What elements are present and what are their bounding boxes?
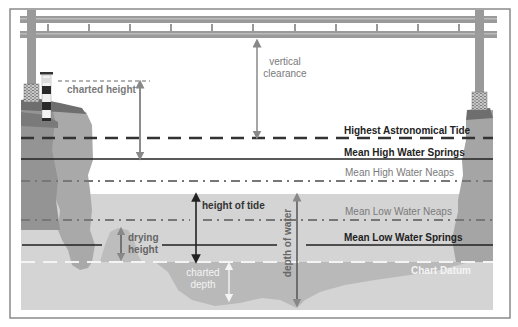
lighthouse: [40, 72, 53, 121]
charted-depth-label-2: depth: [190, 279, 215, 290]
mhwn-label: Mean High Water Neaps: [345, 167, 454, 178]
charted-height-label: charted height: [67, 84, 137, 95]
mhws-label: Mean High Water Springs: [344, 147, 465, 158]
charted-depth-label-1: charted: [186, 267, 219, 278]
vertical-clearance-label-2: clearance: [263, 68, 307, 79]
bridge-right-post: [475, 10, 484, 92]
tidal-levels-diagram: Highest Astronomical Tide Mean High Wate…: [0, 0, 518, 327]
drying-height-label-1: drying: [128, 232, 159, 243]
right-pillar-base: [472, 92, 487, 110]
chart-datum-label: Chart Datum: [411, 265, 471, 276]
vertical-clearance-label-1: vertical: [269, 56, 301, 67]
depth-of-water-label: depth of water: [282, 209, 293, 277]
left-pillar-base: [24, 84, 39, 102]
mlwn-label: Mean Low Water Neaps: [345, 206, 452, 217]
height-of-tide-label: height of tide: [202, 200, 265, 211]
mlws-label: Mean Low Water Springs: [344, 232, 463, 243]
drying-height-label-2: height: [128, 244, 159, 255]
hat-label: Highest Astronomical Tide: [344, 125, 471, 136]
bridge-left-post: [27, 10, 36, 85]
